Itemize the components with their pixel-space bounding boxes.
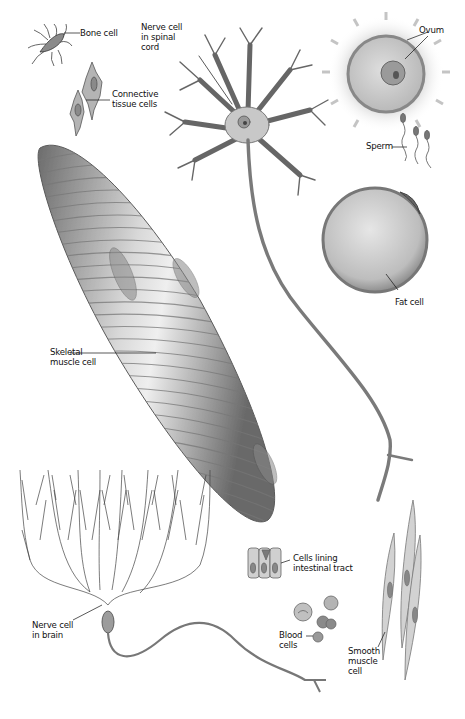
label-blood-cells: Blood cells [279, 630, 302, 650]
connective-tissue-cells [70, 62, 110, 136]
label-fat-cell: Fat cell [395, 297, 424, 307]
label-intestinal-cells: Cells lining intestinal tract [293, 553, 353, 573]
intestinal-cells [248, 548, 290, 578]
brain-nerve-cell [20, 470, 326, 692]
fat-cell [323, 188, 427, 292]
label-connective-tissue-cells: Connective tissue cells [112, 89, 158, 109]
label-smooth-muscle-cell: Smooth muscle cell [348, 646, 380, 676]
label-ovum: Ovum [419, 25, 444, 35]
label-bone-cell: Bone cell [80, 28, 118, 38]
label-skeletal-muscle-cell: Skeletal muscle cell [50, 347, 96, 367]
smooth-muscle-cells [378, 500, 421, 680]
label-sperm: Sperm [366, 141, 393, 151]
label-nerve-cell-spinal-cord: Nerve cell in spinal cord [141, 22, 182, 52]
label-nerve-cell-brain: Nerve cell in brain [32, 620, 73, 640]
bone-cell [28, 24, 80, 66]
